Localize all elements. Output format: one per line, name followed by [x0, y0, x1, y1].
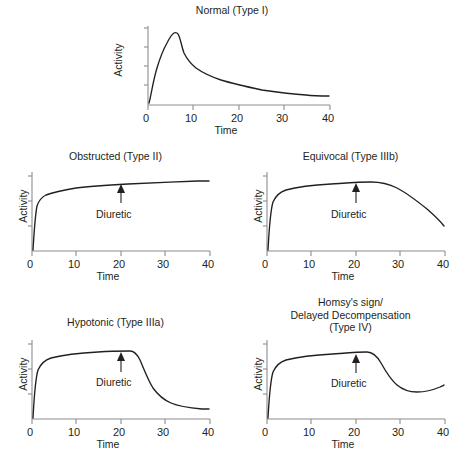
- panel-hypotonic-type-iiia: Hypotonic (Type IIIa) Activity Diuretic …: [8, 316, 223, 450]
- y-axis-label: Activity: [112, 31, 124, 89]
- x-tick-label: 0: [253, 426, 277, 438]
- y-axis-label: Activity: [252, 177, 264, 235]
- diuretic-arrow-head: [352, 354, 360, 363]
- panel-normal-type-i: Normal (Type I) Activity 0: [98, 4, 366, 136]
- panel-title: Equivocal (Type IIIb): [243, 150, 458, 163]
- x-tick-label: 30: [151, 258, 175, 270]
- x-tick-label: 20: [342, 426, 366, 438]
- diuretic-annotation-label: Diuretic: [96, 376, 132, 388]
- x-axis-label: Time: [321, 438, 365, 450]
- panel-title: Hypotonic (Type IIIa): [8, 316, 223, 329]
- renogram-curve-figure: Normal (Type I) Activity 0: [0, 0, 465, 454]
- diuretic-annotation-label: Diuretic: [331, 208, 367, 220]
- panel-title: Normal (Type I): [98, 4, 366, 17]
- x-tick-label: 20: [107, 426, 131, 438]
- x-axis-label: Time: [86, 270, 130, 282]
- x-tick-label: 10: [179, 112, 203, 124]
- x-tick-label: 30: [386, 258, 410, 270]
- y-axis-label: Activity: [252, 345, 264, 403]
- plot-area: [146, 26, 332, 110]
- x-tick-label: 0: [18, 426, 42, 438]
- x-axis-label: Time: [204, 124, 248, 136]
- x-axis-label: Time: [321, 270, 365, 282]
- x-tick-label: 0: [253, 258, 277, 270]
- x-tick-label: 40: [431, 258, 455, 270]
- x-tick-label: 20: [107, 258, 131, 270]
- y-axis-label: Activity: [17, 177, 29, 235]
- diuretic-annotation-label: Diuretic: [331, 377, 367, 389]
- diuretic-arrow-head: [117, 184, 125, 193]
- diuretic-arrow-head: [117, 352, 125, 361]
- x-tick-label: 0: [18, 258, 42, 270]
- x-tick-label: 30: [151, 426, 175, 438]
- x-axis-label: Time: [86, 438, 130, 450]
- x-tick-label: 10: [297, 258, 321, 270]
- x-tick-label: 10: [62, 426, 86, 438]
- x-tick-label: 40: [196, 258, 220, 270]
- x-tick-label: 30: [386, 426, 410, 438]
- panel-title: Homsy's sign/ Delayed Decompensation (Ty…: [243, 296, 458, 334]
- diuretic-annotation-label: Diuretic: [96, 208, 132, 220]
- x-tick-label: 10: [297, 426, 321, 438]
- data-curve: [149, 33, 329, 103]
- x-tick-label: 40: [316, 112, 340, 124]
- x-tick-label: 30: [270, 112, 294, 124]
- x-tick-label: 40: [196, 426, 220, 438]
- panel-title: Obstructed (Type II): [8, 150, 223, 163]
- x-tick-label: 20: [225, 112, 249, 124]
- panel-equivocal-type-iiib: Equivocal (Type IIIb) Activity Diuretic …: [243, 150, 458, 282]
- panel-obstructed-type-ii: Obstructed (Type II) Activity Diuretic 0: [8, 150, 223, 282]
- x-tick-label: 40: [431, 426, 455, 438]
- panel-homsy-sign-type-iv: Homsy's sign/ Delayed Decompensation (Ty…: [243, 296, 458, 450]
- y-axis-label: Activity: [17, 345, 29, 403]
- x-tick-label: 20: [342, 258, 366, 270]
- x-tick-label: 10: [62, 258, 86, 270]
- diuretic-arrow-head: [352, 183, 360, 192]
- x-tick-label: 0: [134, 112, 158, 124]
